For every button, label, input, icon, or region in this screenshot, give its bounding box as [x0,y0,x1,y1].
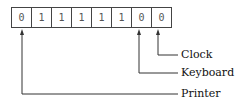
printer-label: Printer [181,88,220,100]
keyboard-label: Keyboard [181,67,234,79]
printer-connector [22,34,178,94]
printer-arrow-icon [20,29,24,35]
keyboard-arrow-icon [137,29,141,35]
clock-label: Clock [181,49,212,61]
clock-arrow-icon [156,29,160,35]
clock-connector [158,34,178,55]
